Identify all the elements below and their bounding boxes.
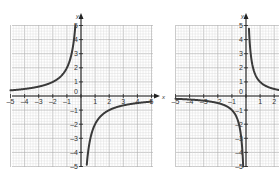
x-tick-label: –1 [228,98,236,105]
y-tick-label: 5 [239,22,243,29]
y-axis-arrow-icon [244,13,249,19]
y-tick-label: 1 [239,78,243,85]
x-tick-label: –3 [35,98,43,105]
chart-stage: xy–5–4–3–2–1012345–5–4–3–2–112345 xy–5–4… [0,0,279,184]
graph-negative-two-over-x: xy–5–4–3–2–1012345–5–4–3–2–112345 [7,13,166,170]
x-axis-label: x [161,94,166,100]
curve-left-branch [11,26,76,91]
y-axis-arrow-icon [79,13,84,19]
x-tick-label: –5 [7,98,15,105]
y-tick-label: –5 [235,163,243,170]
y-tick-label: 4 [239,36,243,43]
y-tick-label: 2 [239,64,243,71]
y-tick-label: 1 [74,78,78,85]
x-tick-label: 1 [258,98,262,105]
y-tick-label: –2 [70,121,78,128]
x-tick-label: 1 [93,98,97,105]
y-tick-label: –4 [70,149,78,156]
x-tick-label: 0 [74,88,78,95]
x-tick-label: 2 [107,98,111,105]
x-axis-arrow-icon [154,94,160,99]
graphs-canvas: xy–5–4–3–2–1012345–5–4–3–2–112345 xy–5–4… [0,0,279,184]
graph-one-over-x: xy–5–4–3–2–1012–5–4–3–2–112345 [172,13,279,170]
y-tick-label: 2 [74,64,78,71]
y-tick-label: –1 [70,107,78,114]
x-tick-label: –4 [21,98,29,105]
y-tick-label: –5 [70,163,78,170]
y-tick-label: 3 [239,50,243,57]
y-tick-label: –1 [235,107,243,114]
x-tick-label: –2 [49,98,57,105]
x-tick-label: –1 [63,98,71,105]
x-tick-label: 3 [121,98,125,105]
x-tick-label: 0 [239,88,243,95]
y-tick-label: 3 [74,50,78,57]
x-tick-label: 2 [272,98,276,105]
y-tick-label: –3 [70,135,78,142]
